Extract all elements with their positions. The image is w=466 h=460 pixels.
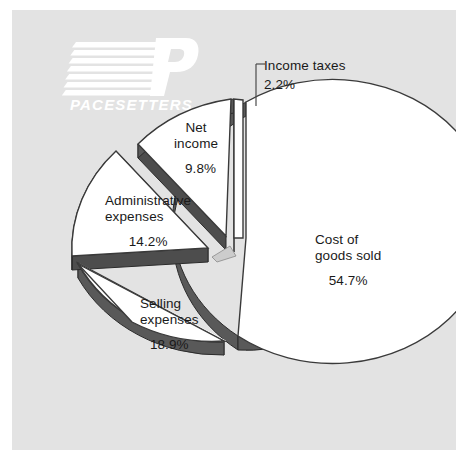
label-net-income: Net income 9.8%	[174, 120, 218, 177]
label-cost-of-goods-sold-percent: 54.7%	[315, 273, 381, 289]
label-selling-expenses-percent: 18.9%	[140, 337, 199, 353]
label-income-taxes-percent: 2.2%	[264, 77, 346, 93]
label-administrative-expenses: Administrative expenses 14.2%	[105, 193, 191, 250]
label-cost-of-goods-sold-line1: Cost of	[315, 232, 358, 247]
label-net-income-percent: 9.8%	[174, 161, 218, 177]
label-administrative-expenses-line2: expenses	[105, 209, 164, 224]
label-selling-expenses-line2: expenses	[140, 312, 199, 327]
chart-page: PACESETTERS	[0, 0, 466, 460]
label-net-income-line1: Net	[185, 120, 206, 135]
label-administrative-expenses-percent: 14.2%	[105, 234, 191, 250]
label-cost-of-goods-sold: Cost of goods sold 54.7%	[315, 232, 381, 289]
label-administrative-expenses-line1: Administrative	[105, 193, 191, 208]
slice-cost-of-goods-sold[interactable]	[238, 79, 456, 363]
label-selling-expenses: Selling expenses 18.9%	[140, 296, 199, 353]
label-cost-of-goods-sold-line2: goods sold	[315, 248, 381, 263]
label-income-taxes-text: Income taxes	[264, 58, 346, 73]
label-net-income-line2: income	[174, 136, 218, 151]
label-selling-expenses-line1: Selling	[140, 296, 181, 311]
label-income-taxes: Income taxes 2.2%	[264, 58, 346, 93]
slice-income-taxes[interactable]	[234, 99, 243, 238]
chart-panel: PACESETTERS	[12, 10, 456, 450]
pie-chart	[12, 10, 456, 450]
